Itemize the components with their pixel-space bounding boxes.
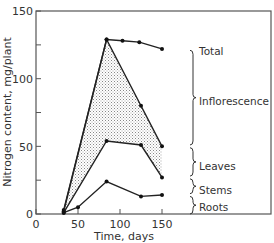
brace	[190, 148, 196, 176]
label-stems: Stems	[199, 184, 232, 196]
plot-area	[62, 37, 196, 214]
label-inflorescence: Inflorescence	[199, 95, 269, 107]
data-point	[139, 143, 143, 147]
x-axis-label: Time, days	[93, 230, 154, 243]
brace	[190, 179, 196, 194]
data-point	[62, 211, 66, 215]
data-point	[139, 194, 143, 198]
data-point	[139, 104, 143, 108]
data-point	[105, 180, 109, 184]
y-tick-50: 50	[19, 141, 33, 154]
chart-svg: 150 100 50 0 0 50 100 150 Time, days Nit…	[0, 0, 274, 243]
x-tick-150: 150	[152, 218, 173, 231]
x-tick-50: 50	[71, 218, 85, 231]
label-leaves: Leaves	[199, 160, 236, 172]
data-point	[160, 175, 164, 179]
label-roots: Roots	[199, 201, 228, 213]
brace	[190, 196, 196, 214]
label-total: Total	[198, 45, 224, 57]
data-point	[160, 144, 164, 148]
data-point	[105, 139, 109, 143]
data-point	[105, 37, 109, 41]
data-point	[137, 40, 141, 44]
chart: 150 100 50 0 0 50 100 150 Time, days Nit…	[0, 0, 274, 243]
y-tick-100: 100	[12, 73, 33, 86]
y-tick-150: 150	[12, 5, 33, 18]
data-point	[160, 47, 164, 51]
x-tick-0: 0	[33, 218, 40, 231]
data-point	[160, 193, 164, 197]
brace	[190, 50, 196, 145]
y-axis-label: Nitrogen content, mg/plant	[1, 37, 14, 187]
data-point	[121, 39, 125, 43]
data-point	[76, 205, 80, 209]
